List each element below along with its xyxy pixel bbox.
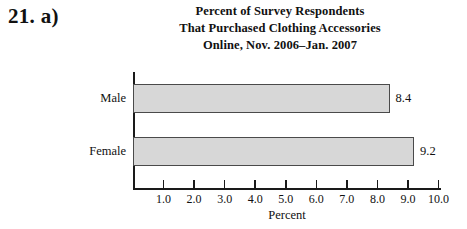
x-tick (254, 180, 256, 188)
x-tick (377, 180, 379, 188)
x-axis-title: Percent (133, 208, 441, 223)
x-tick (163, 180, 165, 188)
bar (133, 137, 414, 166)
x-tick (285, 180, 287, 188)
x-tick (407, 180, 409, 188)
bar-value-label: 9.2 (420, 144, 436, 159)
x-tick (316, 180, 318, 188)
plot-area: 1.02.03.04.05.06.07.08.09.010.0 8.49.2 M… (0, 0, 467, 229)
x-tick (346, 180, 348, 188)
x-tick (193, 180, 195, 188)
x-tick (438, 180, 440, 188)
x-tick-label: 10.0 (421, 192, 457, 207)
value-axis-line (133, 188, 441, 190)
category-label: Female (16, 144, 126, 159)
bar-value-label: 8.4 (396, 91, 412, 106)
bar (133, 84, 390, 113)
figure-container: 21. a) Percent of Survey Respondents Tha… (0, 0, 467, 229)
x-tick (224, 180, 226, 188)
category-label: Male (16, 91, 126, 106)
